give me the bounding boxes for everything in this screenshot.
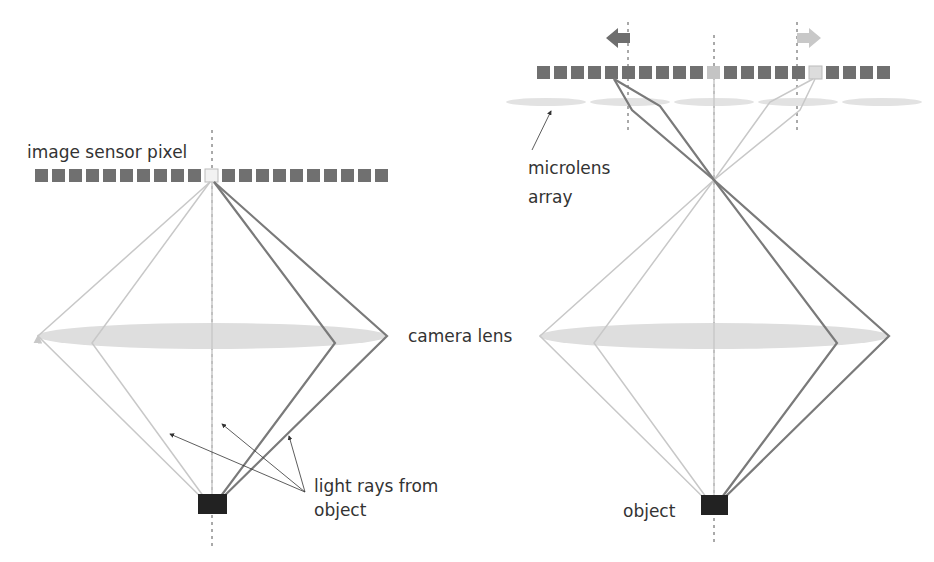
right-diagram xyxy=(506,22,922,546)
label-object-right: object xyxy=(623,499,675,523)
object-right xyxy=(701,495,728,515)
highlighted-sensor-pixel xyxy=(205,169,218,182)
label-light-rays-line1: light rays from xyxy=(314,474,438,498)
label-microlens-line1: microlens xyxy=(528,156,610,180)
shift-right-arrow-icon xyxy=(797,28,821,48)
highlighted-pixel-offset xyxy=(809,66,822,79)
object-left xyxy=(198,494,227,514)
shift-left-arrow-icon xyxy=(606,28,630,48)
microlens-annotation-arrow xyxy=(532,111,551,150)
label-image-sensor-pixel: image sensor pixel xyxy=(27,140,187,164)
label-microlens-line2: array xyxy=(528,185,573,209)
light-field-diagram xyxy=(0,0,934,562)
label-light-rays-line2: object xyxy=(314,498,366,522)
light-rays-right-light xyxy=(540,79,815,508)
highlighted-pixel-center xyxy=(707,66,720,79)
label-camera-lens: camera lens xyxy=(408,324,512,348)
light-rays-right-dark xyxy=(614,79,889,508)
